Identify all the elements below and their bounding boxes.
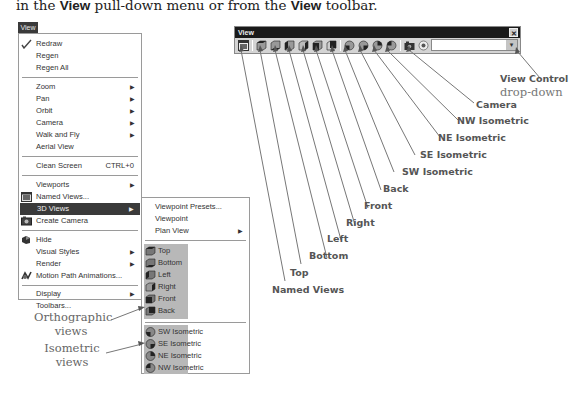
toolbar-ne-isometric-button[interactable]: [372, 40, 383, 51]
submenu-item-front[interactable]: Front: [144, 293, 204, 305]
menu-separator: [22, 156, 138, 157]
menu-item-label: NE Isometric: [158, 351, 201, 360]
toolbar-buttons-row: ▾: [235, 38, 520, 53]
pencil-check-icon: [21, 39, 32, 49]
menu-item-named-views[interactable]: Named Views...: [19, 191, 141, 203]
menu-item-zoom[interactable]: Zoom▶: [19, 81, 141, 93]
menu-item-walk-and-fly[interactable]: Walk and Fly▶: [19, 129, 141, 141]
intro-suffix: toolbar.: [321, 0, 377, 13]
close-icon[interactable]: ✕: [509, 28, 518, 37]
menu-item-label: Orbit: [36, 106, 52, 115]
toolbar-back-button[interactable]: [326, 40, 337, 51]
submenu-arrow-icon: ▶: [130, 129, 135, 141]
menu-item-viewports[interactable]: Viewports▶: [19, 179, 141, 191]
view-menu-title[interactable]: View: [18, 22, 38, 33]
menu-item-label: Bottom: [158, 258, 182, 267]
motion-path-icon: [21, 271, 32, 281]
leader-sw: [345, 50, 394, 172]
menu-item-label: Clean Screen: [36, 161, 82, 170]
view-control-dropdown[interactable]: ▾: [431, 39, 518, 51]
menu-item-regen-all[interactable]: Regen All: [19, 62, 141, 74]
toolbar-title: View: [238, 29, 254, 36]
menu-item-3d-views[interactable]: 3D Views▶: [20, 203, 140, 215]
chevron-down-icon[interactable]: ▾: [506, 40, 517, 50]
isometric-group: SW Isometric SE Isometric NE Isometric N…: [144, 325, 188, 374]
toolbar-top-button[interactable]: [256, 40, 267, 51]
menu-item-render[interactable]: Render▶: [19, 258, 141, 270]
toolbar-camera-button[interactable]: [404, 40, 415, 51]
view-toolbar: View ✕ ▾: [234, 26, 521, 54]
submenu-item-right[interactable]: Right: [144, 281, 204, 293]
toolbar-named-views-button[interactable]: [238, 40, 249, 51]
intro-prefix: in the: [16, 0, 60, 13]
submenu-arrow-icon: ▶: [130, 105, 135, 117]
toolbar-left-button[interactable]: [284, 40, 295, 51]
menu-item-hide[interactable]: Hide: [19, 234, 141, 246]
submenu-item-nw-isometric[interactable]: NW Isometric: [144, 362, 204, 374]
menu-item-label: Walk and Fly: [36, 130, 80, 139]
callout-ne-isometric: NE Isometric: [438, 132, 506, 143]
submenu-arrow-icon: ▶: [130, 258, 135, 270]
submenu-item-sw-isometric[interactable]: SW Isometric: [144, 326, 204, 338]
toolbar-bottom-button[interactable]: [270, 40, 281, 51]
submenu-item-top[interactable]: Top: [144, 245, 204, 257]
toolbar-nw-isometric-button[interactable]: [386, 40, 397, 51]
menu-item-label: Aerial View: [36, 142, 74, 151]
submenu-item-plan-view[interactable]: Plan View▶: [142, 225, 249, 237]
callout-drop-down: drop-down: [500, 85, 563, 99]
submenu-item-ne-isometric[interactable]: NE Isometric: [144, 350, 204, 362]
submenu-item-left[interactable]: Left: [144, 269, 204, 281]
menu-separator: [22, 77, 138, 78]
menu-item-pan[interactable]: Pan▶: [19, 93, 141, 105]
toolbar-separator: [340, 40, 341, 51]
menu-separator: [145, 322, 246, 323]
menu-item-regen[interactable]: Regen: [19, 50, 141, 62]
menu-item-visual-styles[interactable]: Visual Styles▶: [19, 246, 141, 258]
menu-item-label: 3D Views: [37, 204, 69, 213]
leader-isometric: [106, 344, 142, 353]
menu-item-motion-path[interactable]: Motion Path Animations...: [19, 270, 141, 282]
right-view-icon: [145, 282, 156, 292]
menu-item-label: Zoom: [36, 82, 55, 91]
named-views-icon: [21, 192, 32, 202]
ne-isometric-icon: [145, 351, 156, 361]
menu-item-label: Viewpoint Presets...: [155, 202, 222, 211]
menu-item-clean-screen[interactable]: Clean ScreenCTRL+0: [19, 160, 141, 172]
back-view-icon: [145, 306, 156, 316]
left-view-icon: [145, 270, 156, 280]
menu-item-camera[interactable]: Camera▶: [19, 117, 141, 129]
menu-item-create-camera[interactable]: Create Camera: [19, 215, 141, 227]
leader-back: [332, 50, 381, 190]
submenu-arrow-icon: ▶: [130, 288, 135, 300]
submenu-arrow-icon: ▶: [129, 203, 134, 215]
menu-item-label: Viewports: [36, 180, 69, 189]
menu-item-label: Front: [158, 294, 176, 303]
submenu-arrow-icon: ▶: [130, 117, 135, 129]
callout-view-control: View Control: [500, 73, 568, 84]
3d-views-submenu: Viewpoint Presets... Viewpoint Plan View…: [141, 197, 250, 374]
toolbar-front-button[interactable]: [312, 40, 323, 51]
toolbar-se-isometric-button[interactable]: [358, 40, 369, 51]
submenu-arrow-icon: ▶: [130, 81, 135, 93]
menu-item-display[interactable]: Display▶: [19, 288, 141, 300]
toolbar-sw-isometric-button[interactable]: [344, 40, 355, 51]
menu-item-label: Named Views...: [36, 192, 89, 201]
leader-ne: [374, 50, 440, 137]
menu-separator: [145, 240, 246, 241]
menu-item-label: NW Isometric: [158, 363, 204, 372]
submenu-item-bottom[interactable]: Bottom: [144, 257, 204, 269]
callout-orthographic: Orthographic: [34, 310, 108, 324]
menu-item-orbit[interactable]: Orbit▶: [19, 105, 141, 117]
menu-item-redraw[interactable]: Redraw: [19, 38, 141, 50]
submenu-item-back[interactable]: Back: [144, 305, 204, 317]
submenu-item-viewpoint[interactable]: Viewpoint: [142, 213, 249, 225]
menu-item-aerial-view[interactable]: Aerial View: [19, 141, 141, 153]
menu-item-label: Render: [36, 259, 61, 268]
callout-camera: Camera: [476, 99, 517, 110]
menu-item-label: Visual Styles: [36, 247, 79, 256]
submenu-item-viewpoint-presets[interactable]: Viewpoint Presets...: [142, 201, 249, 213]
menu-item-label: Motion Path Animations...: [36, 271, 122, 280]
toolbar-title-bar[interactable]: View ✕: [235, 27, 520, 38]
submenu-item-se-isometric[interactable]: SE Isometric: [144, 338, 204, 350]
toolbar-right-button[interactable]: [298, 40, 309, 51]
